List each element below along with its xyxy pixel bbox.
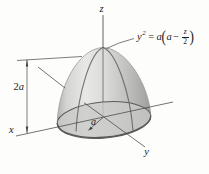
diagram-svg	[0, 0, 209, 174]
height-dimension-label: 2a	[9, 82, 24, 93]
z-axis-label: z	[97, 4, 106, 15]
dimension-arrow-down	[26, 126, 29, 133]
dimension-arrow-up	[26, 60, 29, 67]
equation-equals-sign: =	[148, 32, 154, 43]
equation-fraction-numerator: z	[182, 28, 189, 38]
equation-exponent: 2	[142, 30, 146, 37]
equation-close-paren: )	[190, 30, 194, 44]
radius-dimension-label: a	[89, 117, 98, 127]
equation-leader-line	[107, 39, 135, 49]
x-axis-label: x	[9, 125, 14, 136]
surface-equation: y2 = a ( a − z 2 )	[137, 28, 194, 46]
equation-minus-sign: −	[173, 32, 179, 43]
figure: z x y 2a a y2 = a ( a − z 2 )	[0, 0, 209, 174]
y-axis-line-upper	[38, 67, 65, 88]
equation-fraction-denominator: 2	[183, 38, 187, 46]
y-axis-label: y	[142, 147, 151, 158]
height-dimension-variable: a	[19, 81, 24, 92]
equation-lhs-variable: y	[137, 32, 142, 43]
equation-inner-term: a	[167, 32, 172, 43]
equation-open-paren: (	[162, 30, 166, 44]
equation-fraction: z 2	[182, 28, 189, 46]
